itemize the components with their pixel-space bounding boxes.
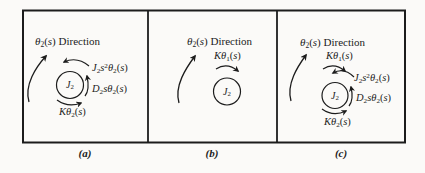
- panel-c-inertia-label: J2: [331, 89, 339, 101]
- theta2-direction-arrow: [290, 55, 306, 101]
- panel-b-inertia-label: J2: [223, 85, 231, 97]
- panel-a-spring-torque-label: Kθ2(s): [59, 106, 86, 121]
- panel-a-direction-label: θ2(s) Direction: [35, 35, 100, 51]
- panel-c-spring-torque-theta1-label: Kθ1(s): [326, 50, 353, 65]
- panel-a-graphics: [28, 56, 89, 105]
- inertia-torque-arrow: [64, 60, 89, 66]
- spring-torque-arrow: [57, 100, 81, 105]
- panel-c-spring-torque-label: Kθ2(s): [324, 116, 351, 131]
- figure-canvas: θ2(s) Direction J2s2θ2(s) D2sθ2(s) Kθ2(s…: [0, 0, 425, 173]
- spring-torque-arrow: [322, 109, 346, 114]
- damper-torque-arrow: [85, 76, 88, 96]
- damper-torque-arrow: [349, 87, 352, 106]
- theta2-direction-arrow: [178, 56, 195, 103]
- theta2-direction-arrow: [28, 56, 46, 102]
- inertia-torque-arrow: [333, 71, 354, 77]
- panel-c-inertia-torque-label: J2s2θ2(s): [354, 70, 390, 87]
- panel-c-caption: (c): [335, 147, 347, 159]
- panel-b-direction-label: θ2(s) Direction: [187, 35, 252, 51]
- panel-b-caption: (b): [206, 147, 219, 159]
- panel-a-caption: (a): [79, 147, 92, 159]
- panel-b-spring-torque-theta1-label: Kθ1(s): [214, 50, 241, 65]
- panel-c-damper-torque-label: D2sθ2(s): [356, 92, 391, 107]
- panel-a-inertia-label: J2: [66, 79, 74, 91]
- panel-a-inertia-torque-label: J2s2θ2(s): [92, 60, 128, 77]
- spring-torque-theta1-arrow: [216, 66, 238, 71]
- panel-a-damper-torque-label: D2sθ2(s): [92, 83, 127, 98]
